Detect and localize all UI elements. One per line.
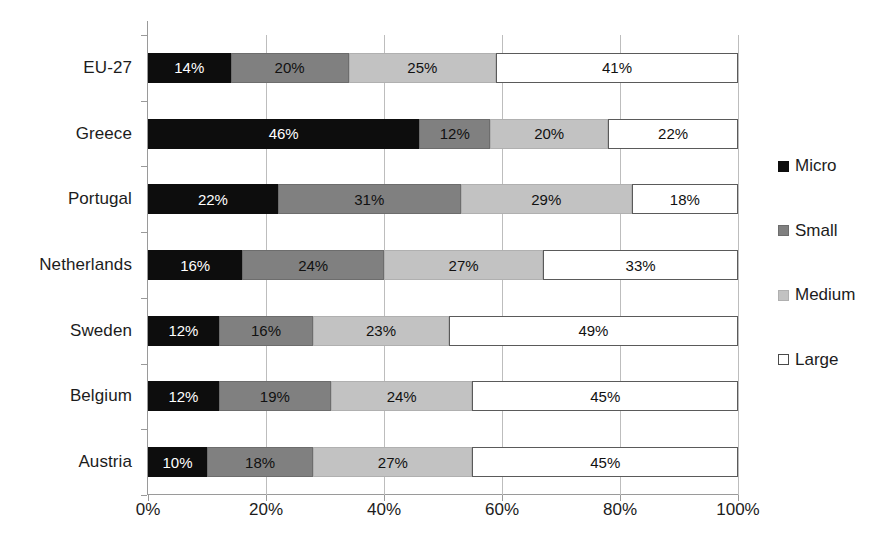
legend-swatch-micro-icon [778,161,789,172]
y-axis-category-label: Greece [0,119,140,149]
y-axis-tick [141,429,147,430]
bar-group-belgium: 12%19%24%45% [148,381,738,411]
bar-segment-medium: 24% [331,381,473,411]
y-axis-category-label: Austria [0,447,140,477]
bar-group-sweden: 12%16%23%49% [148,316,738,346]
bar-segment-medium: 29% [461,184,632,214]
x-axis-tick-label: 60% [485,500,519,520]
bar-segment-micro: 22% [148,184,278,214]
bar-segment-large: 22% [608,119,738,149]
bar-segment-small: 31% [278,184,461,214]
bar-group-portugal: 22%31%29%18% [148,184,738,214]
legend-label: Micro [795,156,837,176]
y-axis-category-label: Portugal [0,184,140,214]
bar-segment-large: 33% [543,250,738,280]
stacked-bar-chart: EU-27GreecePortugalNetherlandsSwedenBelg… [0,0,895,559]
bar-segment-medium: 25% [349,53,497,83]
bar-segment-micro: 14% [148,53,231,83]
bar-segment-large: 18% [632,184,738,214]
legend-swatch-small-icon [778,225,789,236]
x-axis-tick-label: 0% [136,500,161,520]
bar-group-austria: 10%18%27%45% [148,447,738,477]
y-axis-tick [141,35,147,36]
bar-segment-micro: 46% [148,119,419,149]
y-axis-category-label: Sweden [0,316,140,346]
bar-segment-large: 45% [472,447,738,477]
bar-segment-micro: 10% [148,447,207,477]
y-axis-tick [141,166,147,167]
bar-segment-small: 19% [219,381,331,411]
bar-group-netherlands: 16%24%27%33% [148,250,738,280]
bar-group-eu-27: 14%20%25%41% [148,53,738,83]
x-axis-line [147,494,739,495]
bar-segment-small: 24% [242,250,384,280]
bar-segment-micro: 12% [148,316,219,346]
legend-item-large[interactable]: Large [778,349,838,371]
x-axis-tick-label: 100% [716,500,759,520]
bar-segment-large: 45% [472,381,738,411]
bar-segment-small: 20% [231,53,349,83]
legend-item-micro[interactable]: Micro [778,155,837,177]
bar-segment-small: 16% [219,316,313,346]
legend-label: Large [795,350,838,370]
bar-segment-micro: 12% [148,381,219,411]
bar-segment-small: 18% [207,447,313,477]
bar-segment-medium: 20% [490,119,608,149]
legend-swatch-medium-icon [778,290,789,301]
bar-segment-large: 49% [449,316,738,346]
y-axis-tick [141,495,147,496]
bar-segment-small: 12% [419,119,490,149]
bar-segment-micro: 16% [148,250,242,280]
plot-area: 14%20%25%41%46%12%20%22%22%31%29%18%16%2… [148,35,738,495]
x-axis-tick-labels: 0%20%40%60%80%100% [148,500,738,524]
bar-segment-medium: 27% [313,447,472,477]
legend-swatch-large-icon [778,354,789,365]
y-axis-category-label: Belgium [0,381,140,411]
x-axis-tick-label: 20% [249,500,283,520]
x-axis-tick-label: 40% [367,500,401,520]
y-axis-category-label: EU-27 [0,53,140,83]
bar-segment-medium: 27% [384,250,543,280]
y-axis-tick [141,232,147,233]
y-axis-tick [141,101,147,102]
legend-item-medium[interactable]: Medium [778,284,855,306]
legend-label: Small [795,221,838,241]
y-axis-tick [141,364,147,365]
bar-group-greece: 46%12%20%22% [148,119,738,149]
bar-segment-medium: 23% [313,316,449,346]
x-axis-tick-label: 80% [603,500,637,520]
legend-item-small[interactable]: Small [778,220,838,242]
legend-label: Medium [795,285,855,305]
bar-segment-large: 41% [496,53,738,83]
y-axis-tick [141,298,147,299]
y-axis-category-label: Netherlands [0,250,140,280]
